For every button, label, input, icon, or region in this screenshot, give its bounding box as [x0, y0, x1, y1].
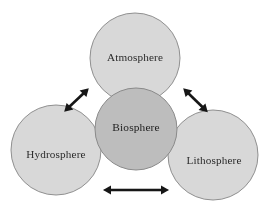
hydrosphere-label: Hydrosphere: [26, 148, 85, 160]
lithosphere-label: Lithosphere: [186, 154, 241, 166]
biosphere-label: Biosphere: [112, 121, 160, 133]
diagram-canvas: Atmosphere Hydrosphere Lithosphere Biosp…: [0, 0, 270, 213]
sphere-hydrosphere[interactable]: Hydrosphere: [11, 105, 101, 195]
earth-systems-diagram: Atmosphere Hydrosphere Lithosphere Biosp…: [0, 0, 270, 213]
sphere-lithosphere[interactable]: Lithosphere: [168, 110, 258, 200]
atmosphere-label: Atmosphere: [107, 51, 163, 63]
sphere-biosphere[interactable]: Biosphere: [95, 88, 177, 170]
